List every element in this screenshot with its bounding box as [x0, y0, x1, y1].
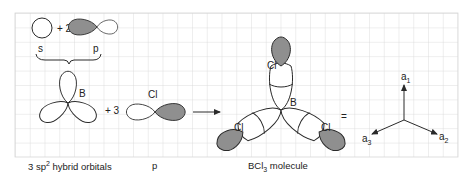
equals-sign: =: [341, 111, 347, 122]
caption-molecule-post: molecule: [267, 160, 308, 171]
caption-hybrid-orbitals: 3 sp2 hybrid orbitals: [28, 160, 112, 172]
caption-molecule: BCl3 molecule: [248, 160, 308, 173]
caption-p: p: [152, 160, 157, 171]
bcl3-chlorine-right-label: Cl: [321, 122, 330, 133]
s-orbital: [32, 18, 52, 38]
s-label: s: [38, 43, 43, 54]
caption-hybrid-post: hybrid orbitals: [50, 161, 112, 172]
bcl3-boron-label: B: [290, 97, 297, 108]
caption-p-text: p: [152, 160, 157, 171]
coefficient-3: + 3: [105, 105, 120, 116]
p-label-top: p: [93, 43, 99, 54]
bcl3-hybridization-diagram: s + 2 p B + 3 Cl: [0, 0, 473, 181]
caption-hybrid-pre: 3 sp: [28, 161, 46, 172]
bcl3-chlorine-top-label: Cl: [267, 60, 276, 71]
boron-label: B: [79, 88, 86, 99]
caption-molecule-pre: BCl: [248, 160, 263, 171]
bcl3-chlorine-left-label: Cl: [234, 122, 243, 133]
chlorine-label: Cl: [148, 89, 157, 100]
